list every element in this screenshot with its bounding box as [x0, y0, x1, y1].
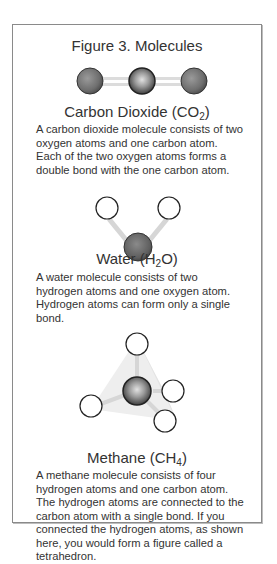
figure-frame: Figure 3. Molecules Carbon Dioxide (C [12, 24, 262, 523]
methane-caption: Methane (CH4) [13, 449, 261, 468]
methane-diagram [13, 321, 261, 451]
hydrogen-atom-right [162, 380, 184, 402]
oxygen-atom-right [181, 68, 207, 94]
co2-description: A carbon dioxide molecule consists of tw… [36, 123, 244, 177]
co2-caption: Carbon Dioxide (CO2) [13, 103, 261, 122]
hydrogen-atom-bottom [154, 410, 176, 432]
hydrogen-atom-right [158, 197, 180, 219]
water-description: A water molecule consists of two hydroge… [36, 271, 244, 325]
hydrogen-atom-left [80, 395, 102, 417]
figure-title: Figure 3. Molecules [13, 37, 261, 54]
water-caption: Water (H2O) [13, 250, 261, 269]
carbon-atom [123, 377, 151, 405]
hydrogen-atom-left [96, 197, 118, 219]
carbon-atom [129, 68, 155, 94]
hydrogen-atom-top [126, 333, 148, 355]
methane-description: A methane molecule consists of four hydr… [36, 469, 244, 564]
oxygen-atom-left [77, 68, 103, 94]
